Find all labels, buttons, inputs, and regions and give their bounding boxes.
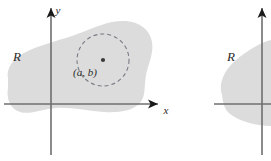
- center-point-label: (a, b): [73, 66, 97, 79]
- right-panel: R: [214, 8, 271, 155]
- y-axis-label-left: y: [55, 4, 61, 16]
- region-label-right: R: [226, 49, 235, 64]
- x-axis-label-left: x: [163, 104, 169, 116]
- figure-canvas: R x y (a, b) R: [0, 0, 271, 161]
- math-figure: R x y (a, b) R: [0, 0, 271, 161]
- left-panel: R x y (a, b): [4, 4, 169, 155]
- center-point-dot: [101, 58, 105, 62]
- region-label-left: R: [12, 49, 21, 64]
